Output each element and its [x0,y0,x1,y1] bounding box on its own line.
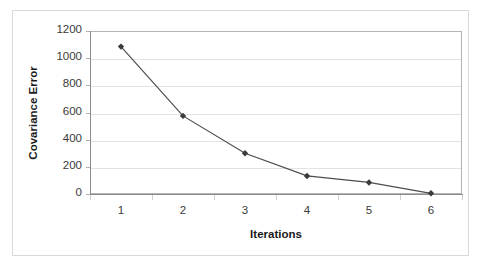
data-point-marker [304,173,310,179]
y-axis-tick-label: 400 [40,132,82,144]
y-axis-title-wrap: Covariance Error [24,31,42,194]
x-axis-tick [214,195,215,200]
data-series-covariance-error [90,31,462,194]
x-axis-tick-label: 3 [214,204,276,216]
y-axis-tick-label: 600 [40,105,82,117]
chart-figure: 020040060080010001200 123456 Iterations … [0,0,484,273]
y-axis-tick-label: 0 [40,186,82,198]
y-axis-title: Covariance Error [27,66,39,159]
x-axis-tick-label: 4 [276,204,338,216]
x-axis-tick [338,195,339,200]
y-axis-tick-label: 800 [40,77,82,89]
y-axis-tick-label: 1200 [40,23,82,35]
x-axis-tick [462,195,463,200]
series-line [121,47,431,194]
y-axis-tick-label: 1000 [40,50,82,62]
x-axis-tick-label: 5 [338,204,400,216]
x-axis-tick [400,195,401,200]
data-point-marker [366,179,372,185]
x-axis-tick [152,195,153,200]
y-axis-tick-label: 200 [40,159,82,171]
series-markers [118,43,434,196]
x-axis-tick [90,195,91,200]
data-point-marker [242,150,248,156]
x-axis-tick-label: 6 [400,204,462,216]
x-axis-tick-label: 2 [152,204,214,216]
x-axis-tick [276,195,277,200]
x-axis-tick-label: 1 [90,204,152,216]
x-axis-title: Iterations [90,228,462,240]
